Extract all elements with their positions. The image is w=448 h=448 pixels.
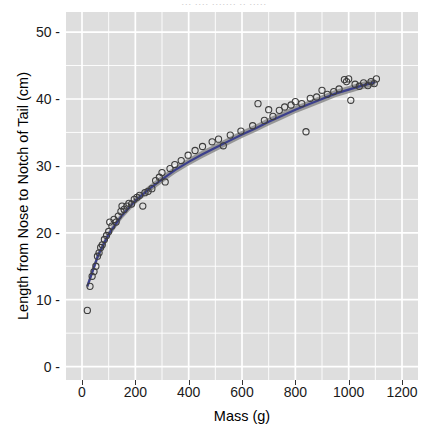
data-point xyxy=(192,147,198,153)
data-point xyxy=(303,129,309,135)
x-tick-label: 0 xyxy=(78,384,86,400)
confidence-band xyxy=(87,79,375,290)
chart-root: ··· ···· ······· ·· ····· 0 -10 -20 -30 … xyxy=(0,0,448,448)
data-point xyxy=(199,143,205,149)
x-tick-mark xyxy=(242,380,243,385)
y-tick-label: 40 - xyxy=(36,91,60,107)
data-point xyxy=(185,152,191,158)
x-tick-label: 1200 xyxy=(386,384,417,400)
data-point xyxy=(255,101,261,107)
data-point xyxy=(292,99,298,105)
x-tick-mark xyxy=(402,380,403,385)
x-tick-label: 600 xyxy=(230,384,253,400)
x-tick-mark xyxy=(349,380,350,385)
data-point xyxy=(348,97,354,103)
x-tick-label: 1000 xyxy=(333,384,364,400)
x-axis-title: Mass (g) xyxy=(66,408,418,424)
x-tick-mark xyxy=(189,380,190,385)
top-truncated-text: ··· ···· ······· ·· ····· xyxy=(0,0,448,10)
y-tick-label: 30 - xyxy=(36,158,60,174)
y-tick-label: 0 - xyxy=(44,359,60,375)
y-tick-label: 50 - xyxy=(36,24,60,40)
y-tick-label: 20 - xyxy=(36,225,60,241)
fit-line xyxy=(87,82,375,286)
data-point xyxy=(209,139,215,145)
x-tick-mark xyxy=(82,380,83,385)
data-point xyxy=(215,136,221,142)
data-point xyxy=(140,203,146,209)
data-point xyxy=(266,107,272,113)
y-tick-label: 10 - xyxy=(36,292,60,308)
plot-panel xyxy=(66,12,418,380)
x-tick-mark xyxy=(135,380,136,385)
x-tick-label: 800 xyxy=(284,384,307,400)
data-point xyxy=(159,169,165,175)
data-point xyxy=(84,307,90,313)
data-points xyxy=(84,76,379,314)
data-point xyxy=(288,102,294,108)
data-layer xyxy=(66,12,418,380)
data-point xyxy=(282,104,288,110)
y-axis-title: Length from Nose to Notch of Tail (cm) xyxy=(14,12,32,380)
data-point xyxy=(319,87,325,93)
x-tick-mark xyxy=(295,380,296,385)
x-tick-label: 400 xyxy=(177,384,200,400)
x-tick-label: 200 xyxy=(124,384,147,400)
